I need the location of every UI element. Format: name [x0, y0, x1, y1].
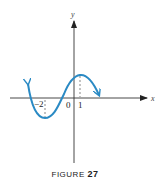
- y-axis-label: y: [70, 10, 75, 19]
- tick-label-neg2: −2: [34, 99, 44, 109]
- tick-label-1: 1: [78, 100, 83, 110]
- cubic-graph: y x −2 0 1: [0, 0, 167, 187]
- caption-number: 27: [87, 169, 98, 179]
- caption-label: FIGURE: [52, 170, 85, 179]
- figure-caption: FIGURE 27: [0, 169, 150, 179]
- cubic-curve: [28, 75, 99, 118]
- tick-label-0: 0: [66, 100, 71, 110]
- x-axis-label: x: [150, 94, 155, 103]
